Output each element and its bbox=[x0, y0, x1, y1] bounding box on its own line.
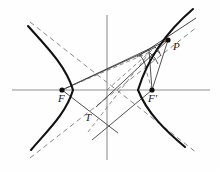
label-focus-f-prime: F' bbox=[148, 93, 157, 104]
asymptote-up-right bbox=[30, 22, 197, 153]
point-p-dot bbox=[165, 37, 170, 42]
ray-f-to-upper-construction bbox=[62, 52, 150, 90]
label-point-t: T bbox=[85, 112, 91, 123]
figure-canvas bbox=[0, 0, 219, 171]
label-point-p: P bbox=[173, 41, 180, 52]
hyperbola-figure: P F F' T bbox=[0, 0, 219, 171]
hyperbola-branch-right bbox=[138, 9, 193, 147]
asymptote-down-right bbox=[30, 27, 197, 158]
label-focus-f: F bbox=[58, 93, 65, 104]
